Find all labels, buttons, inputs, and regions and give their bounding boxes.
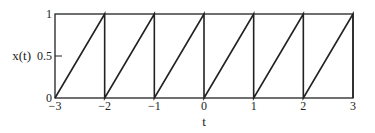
x-axis-label: t bbox=[202, 114, 206, 129]
y-axis-label: x(t) bbox=[12, 48, 31, 63]
x-tick-label: 3 bbox=[350, 99, 356, 113]
x-tick-label: −1 bbox=[148, 99, 161, 113]
x-tick-label: −2 bbox=[98, 99, 111, 113]
y-tick-label: 0.5 bbox=[37, 49, 52, 63]
y-axis-ticks: 00.51 bbox=[37, 7, 62, 105]
sawtooth-line bbox=[55, 14, 353, 98]
x-tick-label: 2 bbox=[300, 99, 306, 113]
y-tick-label: 0 bbox=[46, 91, 52, 105]
x-axis-ticks: −3−2−10123 bbox=[49, 99, 356, 113]
y-tick-label: 1 bbox=[46, 7, 52, 21]
x-tick-label: 1 bbox=[251, 99, 257, 113]
plot-area bbox=[55, 14, 353, 98]
sawtooth-chart: −3−2−10123 00.51 x(t) t bbox=[0, 0, 375, 133]
x-tick-label: 0 bbox=[201, 99, 207, 113]
